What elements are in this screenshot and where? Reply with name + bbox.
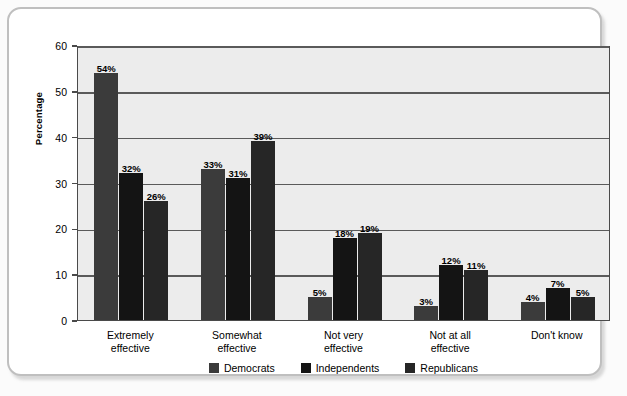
y-tick-label: 50 (41, 87, 67, 98)
legend-entry[interactable]: Independents (301, 363, 380, 374)
y-tick-label: 20 (41, 224, 67, 235)
bar (439, 265, 463, 320)
gridline (78, 46, 609, 48)
x-category-label-line: Don't know (497, 329, 617, 342)
bar (333, 238, 357, 321)
x-category-label: Don't know (497, 329, 617, 342)
y-tick-label: 10 (41, 270, 67, 281)
x-category-label-line: effective (284, 342, 404, 355)
x-category-label-line: effective (390, 342, 510, 355)
bar-value-label: 5% (565, 287, 601, 298)
bar (94, 73, 118, 321)
x-category-label-line: Not very (284, 329, 404, 342)
gridline (78, 138, 609, 140)
bar (464, 270, 488, 320)
bar-value-label: 54% (88, 63, 124, 74)
legend-label: Republicans (420, 363, 478, 374)
chart-card: Percentage 0102030405060 54%32%26%33%31%… (7, 7, 602, 376)
bar (201, 169, 225, 320)
plot-area: 54%32%26%33%31%39%5%18%19%3%12%11%4%7%5% (77, 46, 610, 321)
y-tick-label: 30 (41, 179, 67, 190)
bar (414, 306, 438, 320)
chart-legend: DemocratsIndependentsRepublicans (77, 363, 610, 374)
x-category-label-line: effective (70, 342, 190, 355)
x-category-label: Somewhateffective (177, 329, 297, 354)
y-tick-label: 0 (41, 316, 67, 327)
bar (308, 297, 332, 320)
legend-label: Democrats (224, 363, 275, 374)
bar (144, 201, 168, 320)
x-category-label: Not at alleffective (390, 329, 510, 354)
x-category-label: Extremelyeffective (70, 329, 190, 354)
bar (226, 178, 250, 320)
bar (571, 297, 595, 320)
bar-value-label: 11% (458, 260, 494, 271)
bar-value-label: 39% (245, 131, 281, 142)
legend-label: Independents (316, 363, 380, 374)
legend-entry[interactable]: Republicans (405, 363, 478, 374)
page-background: Percentage 0102030405060 54%32%26%33%31%… (0, 0, 627, 396)
x-category-label: Not veryeffective (284, 329, 404, 354)
bar-value-label: 19% (352, 223, 388, 234)
y-tick-label: 40 (41, 133, 67, 144)
y-tick-label: 60 (41, 41, 67, 52)
x-category-label-line: effective (177, 342, 297, 355)
gridline (78, 184, 609, 186)
bar-value-label: 26% (138, 191, 174, 202)
bar-value-label: 32% (113, 163, 149, 174)
legend-entry[interactable]: Democrats (209, 363, 275, 374)
x-category-label-line: Extremely (70, 329, 190, 342)
gridline (78, 92, 609, 94)
bar (251, 141, 275, 320)
legend-swatch-icon (301, 363, 311, 373)
x-category-label-line: Not at all (390, 329, 510, 342)
bar (358, 233, 382, 320)
legend-swatch-icon (405, 363, 415, 373)
legend-swatch-icon (209, 363, 219, 373)
x-category-label-line: Somewhat (177, 329, 297, 342)
bar (521, 302, 545, 320)
